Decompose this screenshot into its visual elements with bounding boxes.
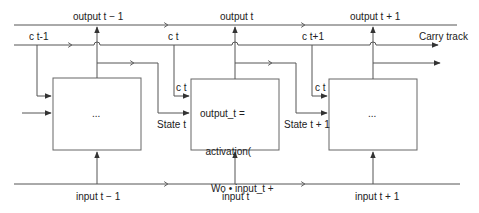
label-state-next: State t + 1 [284, 119, 330, 130]
carry-track-line [14, 42, 438, 45]
label-output-prev: output t − 1 [73, 11, 124, 22]
label-input-prev: input t − 1 [76, 191, 121, 202]
label-box3-carry-in: c t [315, 82, 326, 93]
label-output-cur: output t [220, 11, 254, 22]
formula-line: output_t = [200, 108, 274, 121]
label-carry-prev: c t-1 [29, 31, 49, 42]
carry-into-prev [37, 45, 51, 96]
label-output-next: output t + 1 [350, 11, 401, 22]
label-box2-carry-in: c t [176, 82, 187, 93]
label-state-cur: State t [157, 119, 186, 130]
cell-cur-formula: output_t = activation( Wo • input_t + Uo… [200, 83, 274, 213]
label-carry-cur: c t [168, 31, 179, 42]
cell-prev-ellipsis: ... [92, 108, 100, 119]
label-carry-next: c t+1 [302, 31, 324, 42]
label-input-next: input t + 1 [355, 191, 400, 202]
cell-next-ellipsis: ... [368, 108, 376, 119]
formula-line: activation( [200, 146, 274, 159]
label-carry-track: Carry track [419, 31, 469, 42]
formula-line: Wo • input_t + [200, 183, 274, 196]
